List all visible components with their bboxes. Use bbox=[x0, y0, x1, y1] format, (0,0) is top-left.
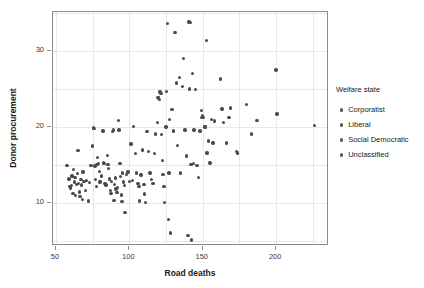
data-point bbox=[74, 194, 77, 197]
data-point bbox=[87, 199, 90, 202]
x-tick-mark bbox=[275, 246, 276, 250]
legend-item[interactable]: Social Democratic bbox=[336, 133, 422, 148]
data-point bbox=[94, 178, 97, 181]
data-point bbox=[170, 108, 173, 111]
data-point bbox=[112, 128, 115, 131]
legend-item[interactable]: Liberal bbox=[336, 118, 422, 133]
gridline-horizontal bbox=[53, 203, 327, 204]
data-point bbox=[164, 125, 167, 128]
y-tick-mark bbox=[47, 202, 51, 203]
data-point bbox=[123, 211, 126, 214]
x-tick-label: 50 bbox=[51, 253, 59, 261]
legend-marker-icon bbox=[340, 123, 343, 126]
data-point bbox=[148, 171, 151, 174]
data-point bbox=[178, 76, 181, 79]
data-point bbox=[161, 159, 164, 162]
x-axis-title: Road deaths bbox=[164, 269, 215, 278]
data-point bbox=[150, 178, 153, 181]
data-point bbox=[123, 184, 126, 187]
data-point bbox=[112, 199, 115, 202]
legend-item[interactable]: Unclassified bbox=[336, 148, 422, 163]
data-point bbox=[192, 128, 195, 131]
data-point bbox=[166, 22, 169, 25]
data-point bbox=[213, 119, 216, 122]
data-point bbox=[142, 183, 145, 186]
x-tick-mark bbox=[128, 246, 129, 250]
y-tick-label: 10 bbox=[36, 199, 44, 207]
data-point bbox=[227, 116, 230, 119]
data-point bbox=[143, 192, 146, 195]
y-axis-title: Donor procurement bbox=[9, 88, 18, 167]
data-point bbox=[167, 218, 170, 221]
gridline-vertical-minor bbox=[313, 12, 314, 244]
data-point bbox=[191, 72, 194, 75]
data-point bbox=[200, 109, 203, 112]
data-point bbox=[92, 127, 95, 130]
data-point bbox=[117, 119, 120, 122]
data-point bbox=[117, 128, 120, 131]
legend-item-label: Corporatist bbox=[348, 106, 385, 114]
data-point bbox=[78, 190, 81, 193]
data-point bbox=[189, 21, 192, 24]
data-point bbox=[88, 181, 91, 184]
data-point bbox=[73, 176, 76, 179]
data-point bbox=[81, 170, 84, 173]
data-point bbox=[275, 112, 278, 115]
data-point bbox=[188, 87, 191, 90]
gridline-horizontal-minor bbox=[53, 13, 327, 14]
y-tick-label: 20 bbox=[36, 122, 44, 130]
x-tick-label: 150 bbox=[195, 253, 208, 261]
data-point bbox=[175, 81, 178, 84]
data-point bbox=[161, 173, 164, 176]
data-point bbox=[154, 132, 157, 135]
data-point bbox=[134, 152, 137, 155]
data-point bbox=[109, 192, 112, 195]
data-point bbox=[145, 130, 148, 133]
data-point bbox=[107, 167, 110, 170]
data-point bbox=[158, 98, 161, 101]
x-tick-mark bbox=[55, 246, 56, 250]
data-point bbox=[194, 88, 197, 91]
data-point bbox=[100, 174, 103, 177]
data-point bbox=[104, 183, 107, 186]
data-point bbox=[205, 39, 208, 42]
data-point bbox=[76, 172, 79, 175]
y-tick-label: 30 bbox=[36, 46, 44, 54]
data-point bbox=[65, 164, 68, 167]
data-point bbox=[197, 176, 200, 179]
data-point bbox=[176, 144, 179, 147]
legend-item[interactable]: Corporatist bbox=[336, 103, 422, 118]
data-point bbox=[173, 31, 176, 34]
data-point bbox=[156, 121, 159, 124]
data-point bbox=[153, 152, 156, 155]
data-point bbox=[195, 164, 198, 167]
data-point bbox=[211, 141, 214, 144]
data-point bbox=[119, 175, 122, 178]
data-point bbox=[245, 103, 248, 106]
legend-items: CorporatistLiberalSocial DemocraticUncla… bbox=[336, 103, 422, 163]
data-point bbox=[135, 171, 138, 174]
legend-marker-icon bbox=[340, 108, 343, 111]
data-point bbox=[121, 171, 124, 174]
legend-marker-icon bbox=[340, 138, 343, 141]
y-tick-mark bbox=[47, 50, 51, 51]
data-point bbox=[141, 148, 144, 151]
data-point bbox=[186, 234, 189, 237]
data-point bbox=[182, 57, 185, 60]
data-point bbox=[255, 119, 258, 122]
data-point bbox=[159, 92, 162, 95]
data-point bbox=[95, 185, 98, 188]
data-point bbox=[131, 179, 134, 182]
data-point bbox=[101, 129, 104, 132]
data-point bbox=[129, 142, 132, 145]
legend: Welfare state CorporatistLiberalSocial D… bbox=[336, 86, 422, 163]
legend-title: Welfare state bbox=[336, 86, 422, 94]
data-point bbox=[81, 198, 84, 201]
data-point bbox=[84, 189, 87, 192]
data-point bbox=[72, 168, 75, 171]
data-point bbox=[106, 154, 109, 157]
data-point bbox=[229, 106, 232, 109]
data-point bbox=[120, 193, 123, 196]
data-point bbox=[99, 180, 102, 183]
data-point bbox=[138, 199, 141, 202]
